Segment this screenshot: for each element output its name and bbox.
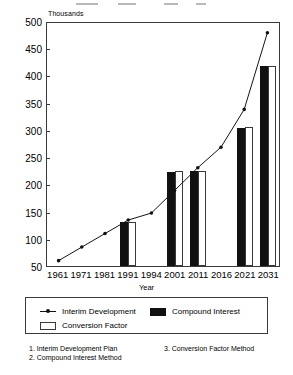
x-axis-title: Year [0, 283, 293, 292]
footnote-item: 3. Conversion Factor Method [164, 344, 254, 353]
y-axis-unit-label: Thousands [48, 10, 84, 17]
bar-compound-interest-2021 [237, 128, 245, 266]
y-axis-tick-label: 100 [2, 234, 42, 245]
hollow-bar-swatch-icon [40, 322, 56, 330]
footnote-item: 2. Compound Interest Method [29, 353, 122, 362]
x-axis-tick-label: 2001 [164, 269, 185, 280]
y-axis-tick-label: 250 [2, 153, 42, 164]
line-marker-2031 [266, 31, 270, 35]
x-axis-tick-label: 2011 [188, 269, 208, 280]
y-axis-tick-label: 50 [2, 262, 42, 273]
bar-conversion-factor-2031 [268, 66, 276, 266]
bar-compound-interest-2001 [167, 172, 175, 266]
legend-label: Compound Interest [172, 307, 240, 316]
y-axis-tick-label: 150 [2, 207, 42, 218]
x-axis-tick-label: 2031 [258, 269, 279, 280]
legend-item-interim-development: Interim Development [40, 307, 136, 316]
line-marker-2011 [196, 166, 200, 170]
legend-label: Interim Development [62, 307, 136, 316]
bar-conversion-factor-2021 [245, 127, 253, 266]
footnote-column-right: 3. Conversion Factor Method [164, 344, 254, 353]
legend-label: Conversion Factor [62, 321, 127, 330]
x-axis-tick-label: 1961 [47, 269, 68, 280]
line-marker-swatch-icon [40, 308, 56, 316]
y-axis-tick-label: 500 [2, 17, 42, 28]
line-marker-1991 [126, 218, 130, 222]
footnote-item: 1. Interim Development Plan [29, 344, 122, 353]
bar-compound-interest-2031 [260, 66, 268, 266]
y-axis-tick-label: 300 [2, 125, 42, 136]
bar-conversion-factor-2001 [175, 171, 183, 266]
y-axis-tick-label: 200 [2, 180, 42, 191]
footnote-column-left: 1. Interim Development Plan 2. Compound … [29, 344, 122, 362]
x-axis-tick-label: 1981 [94, 269, 115, 280]
y-axis-tick-label: 400 [2, 71, 42, 82]
solid-bar-swatch-icon [150, 308, 166, 316]
line-marker-2016 [219, 145, 223, 149]
line-marker-1971 [80, 245, 84, 249]
x-axis-tick-label: 1994 [141, 269, 162, 280]
x-axis-tick-label: 2021 [234, 269, 255, 280]
chart-legend: Interim Development Compound Interest Co… [25, 297, 268, 334]
line-marker-2021 [242, 108, 246, 112]
y-axis-tick-label: 450 [2, 44, 42, 55]
x-axis-tick-label: 1971 [71, 269, 92, 280]
chart-page: Thousands 50100150200250300350400450500 … [0, 0, 293, 375]
bar-compound-interest-1991 [120, 222, 128, 266]
line-marker-1981 [103, 232, 107, 236]
bar-conversion-factor-2011 [198, 171, 206, 266]
bar-compound-interest-2011 [190, 171, 198, 266]
plot-area [46, 22, 280, 267]
bar-conversion-factor-1991 [128, 222, 136, 266]
legend-item-conversion-factor: Conversion Factor [40, 321, 127, 330]
legend-item-compound-interest: Compound Interest [150, 307, 240, 316]
y-axis-tick-label: 350 [2, 98, 42, 109]
line-marker-1994 [150, 211, 154, 215]
scan-artifact-row [0, 2, 293, 8]
x-axis-tick-label: 1991 [117, 269, 138, 280]
x-axis-tick-label: 2016 [211, 269, 232, 280]
line-marker-1961 [57, 259, 61, 263]
